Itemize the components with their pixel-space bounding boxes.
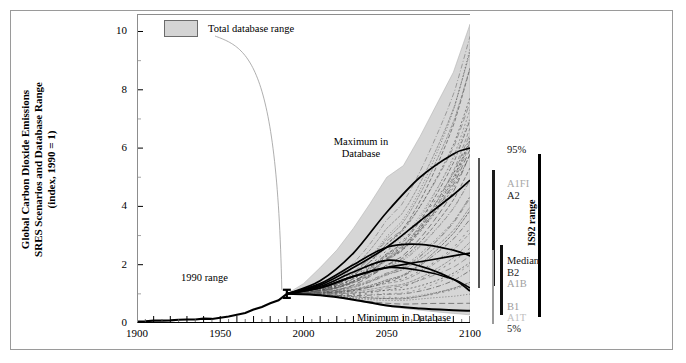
annotation-maximum-in-database: Maximum in Database <box>315 136 407 160</box>
right-panel-label-a1t: A1T <box>507 312 526 324</box>
legend-swatch-total-database-range <box>164 20 198 37</box>
bar-b1-a1t <box>500 245 503 315</box>
x-tick-label-2000: 2000 <box>274 327 334 339</box>
right-side-range-panel: IS92 range 95%A1FIA2MedianB2A1BB1A1T5% <box>470 14 670 334</box>
legend-label-total-database-range: Total database range <box>208 23 294 34</box>
right-panel-label-a2: A2 <box>507 190 520 202</box>
x-tick-label-1900: 1900 <box>107 327 167 339</box>
y-tick-label-6: 6 <box>87 141 127 153</box>
y-axis-label-line-3: (index, 1990 = 1) <box>45 40 58 300</box>
right-panel-label-5-: 5% <box>507 323 521 335</box>
legend: Total database range <box>164 20 294 37</box>
figure-container: Global Carbon Dioxide Emissions SRES Sce… <box>0 0 686 363</box>
y-axis-label-line-1: Global Carbon Dioxide Emissions <box>19 40 32 300</box>
plot-area: 0246810 19001950200020502100 Total datab… <box>137 14 470 323</box>
bar-median-group <box>492 250 494 324</box>
y-axis-label: Global Carbon Dioxide Emissions SRES Sce… <box>19 40 58 300</box>
right-panel-label-b2: B2 <box>507 267 519 279</box>
annotation-minimum-in-database: Minimum in Database <box>357 312 487 324</box>
right-panel-label-a1b: A1B <box>507 278 527 290</box>
annotation-1990-range: 1990 range <box>181 272 261 284</box>
x-tick-label-2050: 2050 <box>357 327 417 339</box>
is92-range-label: IS92 range <box>526 200 537 246</box>
y-tick-label-2: 2 <box>87 258 127 270</box>
right-panel-label-b1: B1 <box>507 301 519 313</box>
annotation-maximum-line-1: Maximum in <box>315 136 407 148</box>
annotation-maximum-line-2: Database <box>315 148 407 160</box>
y-tick-label-4: 4 <box>87 199 127 211</box>
y-tick-label-8: 8 <box>87 83 127 95</box>
x-tick-label-1950: 1950 <box>190 327 250 339</box>
bar-is92 <box>538 154 541 317</box>
bar-sres-range <box>478 158 480 288</box>
right-panel-label-95-: 95% <box>507 144 526 156</box>
right-panel-label-a1fi: A1FI <box>507 178 529 190</box>
right-panel-label-median: Median <box>507 255 539 267</box>
y-axis-label-line-2: SRES Scenarios and Database Range <box>32 40 45 300</box>
y-tick-label-10: 10 <box>87 24 127 36</box>
